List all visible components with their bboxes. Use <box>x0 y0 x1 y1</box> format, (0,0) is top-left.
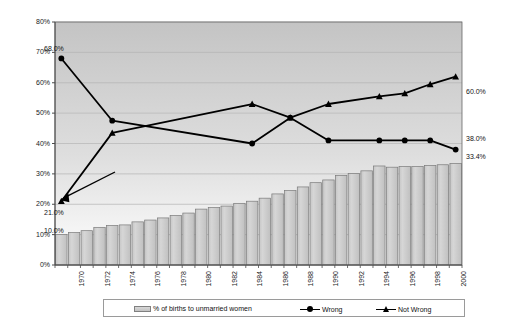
chart-plot-area <box>0 0 506 331</box>
x-tick-1974: 1974 <box>129 271 136 301</box>
x-tick-1972: 1972 <box>104 271 111 301</box>
x-tick-1984: 1984 <box>256 271 263 301</box>
data-label-wrong-2000: 38.0% <box>466 135 486 142</box>
legend-label-wrong: Wrong <box>322 306 343 313</box>
data-label-wrong-1969: 68.0% <box>44 45 64 52</box>
chart-container: 0%10%20%30%40%50%60%70%80% 1970197219741… <box>0 0 506 331</box>
x-tick-1976: 1976 <box>154 271 161 301</box>
x-tick-1990: 1990 <box>332 271 339 301</box>
data-label-bar-2000: 33.4% <box>466 153 486 160</box>
x-tick-1994: 1994 <box>383 271 390 301</box>
x-tick-1992: 1992 <box>358 271 365 301</box>
x-tick-2000: 2000 <box>460 271 467 301</box>
data-label-notwrong-1969: 21.0% <box>44 209 64 216</box>
y-tick-0%: 0% <box>8 261 50 268</box>
y-tick-80%: 80% <box>8 18 50 25</box>
x-tick-1988: 1988 <box>307 271 314 301</box>
y-tick-20%: 20% <box>8 200 50 207</box>
y-tick-60%: 60% <box>8 79 50 86</box>
chart-legend: % of births to unmarried women Wrong Not… <box>103 299 465 317</box>
line-circle-marker-icon <box>300 305 320 313</box>
legend-item-births[interactable]: % of births to unmarried women <box>134 305 252 312</box>
y-tick-40%: 40% <box>8 140 50 147</box>
legend-label-births: % of births to unmarried women <box>153 305 252 312</box>
line-triangle-marker-icon <box>376 305 396 313</box>
y-tick-50%: 50% <box>8 109 50 116</box>
legend-item-not-wrong[interactable]: Not Wrong <box>376 305 431 313</box>
data-label-notwrong-2000: 60.0% <box>466 88 486 95</box>
data-label-bar-1969: 10.0% <box>44 227 64 234</box>
legend-label-not-wrong: Not Wrong <box>398 306 431 313</box>
legend-item-wrong[interactable]: Wrong <box>300 305 343 313</box>
x-tick-1980: 1980 <box>205 271 212 301</box>
x-tick-1978: 1978 <box>180 271 187 301</box>
x-tick-1982: 1982 <box>231 271 238 301</box>
x-tick-1996: 1996 <box>409 271 416 301</box>
x-tick-1970: 1970 <box>78 271 85 301</box>
y-tick-30%: 30% <box>8 170 50 177</box>
bar-swatch-icon <box>134 306 151 312</box>
x-tick-1986: 1986 <box>282 271 289 301</box>
x-tick-1998: 1998 <box>434 271 441 301</box>
